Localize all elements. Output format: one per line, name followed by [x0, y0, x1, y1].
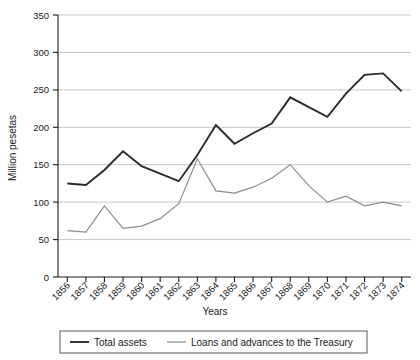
legend-label-total-assets: Total assets — [94, 337, 147, 348]
x-axis-label: Years — [202, 306, 227, 317]
ytick-label-250: 250 — [33, 84, 49, 95]
ytick-label-50: 50 — [38, 234, 49, 245]
ytick-label-150: 150 — [33, 159, 49, 170]
ytick-label-300: 300 — [33, 47, 49, 58]
ytick-label-0: 0 — [44, 272, 49, 283]
ytick-label-100: 100 — [33, 197, 49, 208]
ytick-label-350: 350 — [33, 10, 49, 21]
ytick-label-200: 200 — [33, 122, 49, 133]
y-axis-label: Million pesetas — [7, 115, 18, 181]
legend-label-loans: Loans and advances to the Treasury — [191, 337, 353, 348]
chart-figure: 350 300 250 200 150 100 50 0 Million pes… — [0, 0, 420, 360]
chart-legend: Total assets Loans and advances to the T… — [60, 331, 367, 353]
line-chart-svg: 350 300 250 200 150 100 50 0 Million pes… — [0, 0, 420, 360]
